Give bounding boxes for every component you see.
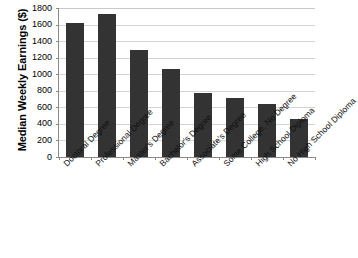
y-tick-mark [56, 140, 59, 141]
y-tick-label: 1000 [12, 70, 52, 79]
y-tick-label: 800 [12, 86, 52, 95]
y-tick-label: 1200 [12, 53, 52, 62]
y-tick-mark [56, 107, 59, 108]
y-tick-label: 1400 [12, 37, 52, 46]
y-tick-label: 400 [12, 119, 52, 128]
y-tick-mark [56, 41, 59, 42]
y-tick-mark [56, 8, 59, 9]
gridline [59, 8, 315, 9]
y-tick-mark [56, 25, 59, 26]
y-tick-mark [56, 58, 59, 59]
bar [66, 23, 84, 157]
y-tick-label: 1600 [12, 20, 52, 29]
x-axis-category-labels: Doctoral DegreeProfessional DegreeMaster… [58, 158, 322, 258]
y-tick-label: 200 [12, 136, 52, 145]
y-tick-mark [56, 74, 59, 75]
y-tick-mark [56, 124, 59, 125]
y-tick-label: 0 [12, 153, 52, 162]
y-tick-mark [56, 91, 59, 92]
y-tick-label: 600 [12, 103, 52, 112]
y-tick-label: 1800 [12, 4, 52, 13]
